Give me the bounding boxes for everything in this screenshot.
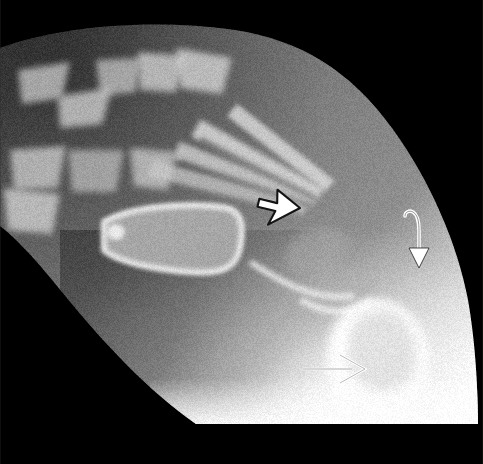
radiograph-image [0,0,483,464]
radiograph-viewport: radiograph lateral-oblique foot [0,0,483,464]
